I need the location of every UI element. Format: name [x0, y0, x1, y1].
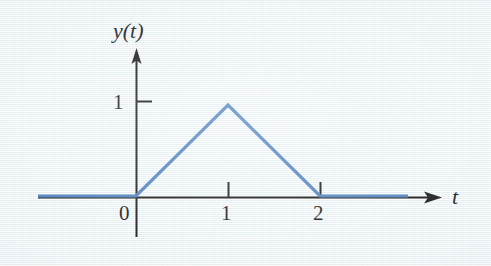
y-tick-label-1: 1	[113, 92, 124, 113]
y-axis-label: y(t)	[113, 20, 144, 42]
figure-canvas: y(t) 1 0 1 2 t	[0, 0, 491, 266]
x-tick-label-1: 1	[221, 203, 232, 224]
x-tick-label-0: 0	[119, 203, 130, 224]
signal-curve	[38, 105, 408, 196]
x-tick-label-2: 2	[313, 203, 324, 224]
x-axis-label: t	[452, 186, 458, 208]
plot-svg	[0, 0, 491, 266]
